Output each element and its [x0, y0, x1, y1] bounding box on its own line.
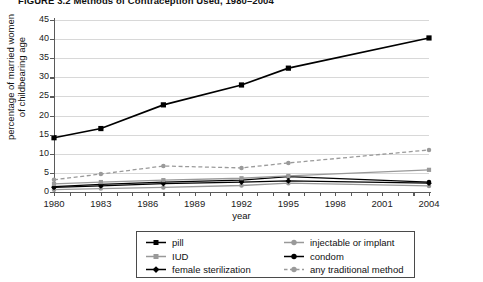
- legend-item-pill[interactable]: pill: [145, 236, 251, 250]
- x-axis-tick-label: 1983: [81, 198, 121, 209]
- x-axis-tick-label: 1992: [222, 198, 262, 209]
- x-axis-title: year: [0, 210, 483, 221]
- x-axis-tick: [398, 192, 399, 196]
- x-axis-tick: [70, 192, 71, 196]
- figure-container: FIGURE 3.2 Methods of Contraception Used…: [0, 0, 483, 282]
- legend-column-left: pillIUDfemale sterilization: [145, 236, 251, 277]
- legend-item-condom[interactable]: condom: [283, 250, 403, 264]
- series-pill: [51, 35, 431, 140]
- x-axis-tick: [163, 192, 164, 196]
- x-axis-tick: [117, 192, 118, 196]
- y-axis-tick: [50, 154, 54, 155]
- x-axis-tick: [351, 192, 352, 196]
- x-axis-tick: [273, 192, 274, 196]
- y-axis-tick: [50, 135, 54, 136]
- x-axis-tick-label: 2001: [362, 198, 402, 209]
- x-axis-tick: [257, 192, 258, 196]
- legend-item-label: female sterilization: [172, 264, 251, 275]
- legend-marker-icon: [145, 237, 167, 248]
- legend-column-right: injectable or implantcondomany tradition…: [283, 236, 403, 277]
- x-axis-tick: [242, 192, 243, 196]
- y-axis-tick: [50, 116, 54, 117]
- legend-marker-icon: [283, 237, 305, 248]
- x-axis-tick: [335, 192, 336, 196]
- x-axis-tick: [85, 192, 86, 196]
- legend-item-label: any traditional method: [310, 264, 403, 275]
- legend-marker-icon: [283, 251, 305, 262]
- legend-item-IUD[interactable]: IUD: [145, 250, 251, 264]
- x-axis-tick: [226, 192, 227, 196]
- x-axis-tick: [54, 192, 55, 196]
- x-axis-tick-label: 2004: [409, 198, 449, 209]
- legend-item-label: injectable or implant: [310, 237, 395, 248]
- legend-item-female-sterilization[interactable]: female sterilization: [145, 263, 251, 277]
- x-axis-tick: [429, 192, 430, 196]
- x-axis-tick: [367, 192, 368, 196]
- x-axis-tick: [148, 192, 149, 196]
- legend-item-label: pill: [172, 237, 184, 248]
- legend-item-injectable-or-implant[interactable]: injectable or implant: [283, 236, 403, 250]
- x-axis-tick: [382, 192, 383, 196]
- x-axis-tick-label: 1980: [34, 198, 74, 209]
- y-axis-tick: [50, 39, 54, 40]
- x-axis-tick: [320, 192, 321, 196]
- x-axis-tick-label: 1989: [175, 198, 215, 209]
- x-axis-tick: [288, 192, 289, 196]
- x-axis-tick: [210, 192, 211, 196]
- x-axis-tick: [179, 192, 180, 196]
- x-axis-tick-label: 1986: [128, 198, 168, 209]
- y-axis-tick: [50, 58, 54, 59]
- chart-legend: pillIUDfemale sterilization injectable o…: [136, 231, 415, 278]
- x-axis-tick: [101, 192, 102, 196]
- x-axis-tick: [132, 192, 133, 196]
- y-axis-tick: [50, 173, 54, 174]
- x-axis-tick: [304, 192, 305, 196]
- legend-item-label: IUD: [172, 251, 188, 262]
- legend-marker-icon: [145, 264, 167, 275]
- legend-marker-icon: [145, 251, 167, 262]
- x-axis-tick-label: 1998: [315, 198, 355, 209]
- y-axis-tick: [50, 20, 54, 21]
- x-axis-tick: [195, 192, 196, 196]
- y-axis-tick: [50, 96, 54, 97]
- legend-item-label: condom: [310, 251, 344, 262]
- x-axis-tick-label: 1995: [268, 198, 308, 209]
- x-axis-tick: [413, 192, 414, 196]
- y-axis-tick: [50, 77, 54, 78]
- legend-item-any-traditional-method[interactable]: any traditional method: [283, 263, 403, 277]
- legend-marker-icon: [283, 264, 305, 275]
